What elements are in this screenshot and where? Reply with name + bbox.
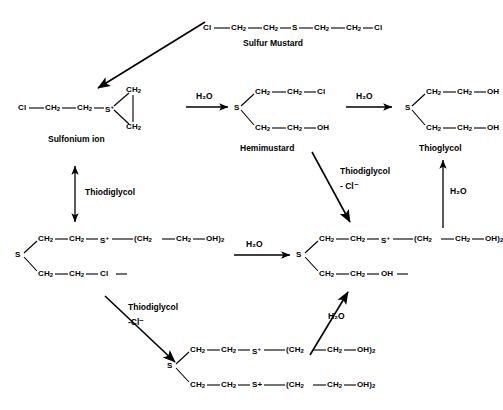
hemimustard-bonds: [241, 92, 316, 128]
hemimustard-top-ch2-2: CH2: [287, 87, 302, 98]
bis-adduct-top-ch2-4: CH2: [327, 345, 342, 356]
sulfonium-ring-ch2-top: CH2: [126, 85, 141, 96]
bis-adduct-top-s-plus: S+: [252, 345, 261, 356]
hydroxy-adduct-atom-s: S: [296, 250, 301, 259]
sulfonium-atom-ch2-1: CH2: [45, 103, 60, 114]
sulfur-mustard-atom-s: S: [292, 23, 297, 32]
hydroxy-adduct-top-s-plus: S+: [381, 234, 390, 245]
thioglycol-bottom-oh: OH: [487, 123, 499, 132]
bis-adduct-bottom-ch2-1: CH2: [190, 380, 205, 391]
bis-adduct-top-ch2-2: CH2: [221, 345, 236, 356]
chloro-adduct-bottom-ch2-2: CH2: [69, 269, 84, 280]
thioglycol-atom-s: S: [405, 103, 410, 112]
bis-adduct-atom-s: S: [167, 361, 172, 370]
reagent-thiodiglycol-bottom: Thiodiglycol: [128, 302, 178, 313]
chloro-adduct-top-ch2-4: CH2: [176, 234, 191, 245]
thioglycol-bonds: [412, 92, 486, 128]
reagent-thiodiglycol-left: Thiodiglycol: [85, 187, 135, 198]
reagent-minus-chloride-bottom: -Cl⁻: [128, 317, 144, 328]
reaction-diagram-canvas: Cl CH2 CH2 S CH2 CH2 Cl Sulfur Mustard C…: [0, 0, 503, 410]
bis-adduct-bottom-s-plus: S+: [252, 380, 262, 389]
thioglycol-top-ch2-1: CH2: [426, 87, 441, 98]
thioglycol-label: Thioglycol: [419, 143, 462, 153]
thioglycol-top-oh: OH: [487, 87, 499, 96]
sulfur-mustard-atom-cl-right: Cl: [374, 23, 382, 32]
reagent-h2o-1: H₂O: [196, 91, 213, 102]
reagent-h2o-2: H₂O: [356, 91, 373, 102]
bis-adduct-top-ch2-3: (CH2: [286, 345, 304, 356]
sulfur-mustard-atom-cl-left: Cl: [203, 23, 211, 32]
reagent-h2o-3: H₂O: [450, 186, 467, 197]
hemimustard-bottom-oh: OH: [317, 123, 329, 132]
bis-adduct-top-ch2-1: CH2: [190, 345, 205, 356]
sulfur-mustard-atom-ch2-1: CH2: [231, 23, 246, 34]
bis-adduct-bottom-ch2-3: (CH2: [286, 380, 304, 391]
reagent-h2o-5: H₂O: [328, 311, 345, 322]
arrow-mustard-to-sulfonium: [98, 22, 205, 88]
hydroxy-adduct-top-ch2-3: (CH2: [414, 234, 432, 245]
sulfonium-ion-label: Sulfonium ion: [48, 134, 105, 144]
bis-adduct-bottom-oh2: OH)2: [357, 380, 375, 391]
hemimustard-label: Hemimustard: [240, 143, 294, 153]
hydroxy-adduct-bottom-ch2-1: CH2: [319, 269, 334, 280]
reagent-h2o-4: H₂O: [246, 239, 263, 250]
sulfur-mustard-atom-ch2-3: CH2: [314, 23, 329, 34]
sulfur-mustard-atom-ch2-4: CH2: [346, 23, 361, 34]
chloro-adduct-top-oh2: OH)2: [206, 234, 224, 245]
hemimustard-atom-s: S: [234, 103, 239, 112]
hemimustard-bottom-ch2-1: CH2: [255, 123, 270, 134]
bis-adduct-top-oh2: OH)2: [357, 345, 375, 356]
hydroxy-adduct-top-ch2-2: CH2: [350, 234, 365, 245]
sulfonium-ring-ch2-bottom: CH2: [126, 122, 141, 133]
bis-adduct-bottom-ch2-4: CH2: [327, 380, 342, 391]
sulfur-mustard-atom-ch2-2: CH2: [263, 23, 278, 34]
sulfur-mustard-label: Sulfur Mustard: [243, 38, 303, 48]
hemimustard-top-ch2-1: CH2: [255, 87, 270, 98]
chloro-adduct-top-ch2-2: CH2: [69, 234, 84, 245]
hemimustard-top-cl: Cl: [317, 87, 325, 96]
chloro-adduct-top-ch2-3: (CH2: [134, 234, 152, 245]
hydroxy-adduct-top-oh2: OH)2: [485, 234, 503, 245]
hydroxy-adduct-top-ch2-1: CH2: [319, 234, 334, 245]
reagent-minus-chloride-middle: - Cl⁻: [340, 181, 359, 192]
reagent-thiodiglycol-middle: Thiodiglycol: [340, 166, 390, 177]
thioglycol-bottom-ch2-2: CH2: [457, 123, 472, 134]
sulfonium-atom-cl: Cl: [18, 103, 26, 112]
thioglycol-bottom-ch2-1: CH2: [426, 123, 441, 134]
hemimustard-bottom-ch2-2: CH2: [287, 123, 302, 134]
hydroxy-adduct-top-ch2-4: CH2: [455, 234, 470, 245]
hydroxy-adduct-bottom-ch2-2: CH2: [350, 269, 365, 280]
chloro-adduct-top-ch2-1: CH2: [38, 234, 53, 245]
chloro-adduct-bottom-ch2-1: CH2: [38, 269, 53, 280]
chloro-adduct-bottom-cl: Cl: [100, 269, 108, 278]
bis-adduct-bottom-ch2-2: CH2: [221, 380, 236, 391]
thioglycol-top-ch2-2: CH2: [457, 87, 472, 98]
chloro-adduct-atom-s: S: [15, 250, 20, 259]
chloro-adduct-top-s-plus: S+: [100, 234, 109, 245]
hydroxy-adduct-bottom-oh: OH: [381, 269, 393, 278]
sulfonium-atom-ch2-2: CH2: [77, 103, 92, 114]
sulfonium-atom-s-plus: S+: [105, 103, 114, 114]
